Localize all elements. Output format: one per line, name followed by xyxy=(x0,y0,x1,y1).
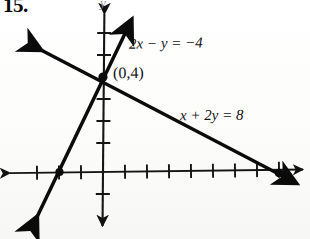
intersection-point-label: (0,4) xyxy=(113,65,144,81)
figure-container: 15. xyxy=(0,0,310,239)
line-2x-minus-y-equals-neg4 xyxy=(37,20,132,217)
point-x-intercept-8 xyxy=(275,169,284,178)
point-x-intercept-neg2 xyxy=(55,168,63,176)
y-axis-label: y xyxy=(100,0,106,9)
equation-label-1: 2x − y = −4 xyxy=(129,35,203,52)
line-x-plus-2y-equals-8 xyxy=(41,50,296,183)
x-axis xyxy=(10,170,303,174)
equation-label-2: x + 2y = 8 xyxy=(180,108,244,124)
point-intersection-0-4 xyxy=(98,72,107,81)
